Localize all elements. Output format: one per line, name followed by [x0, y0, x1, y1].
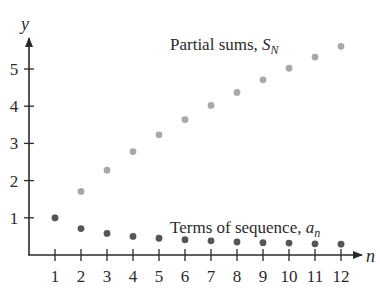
x-tick-label: 7	[207, 267, 216, 286]
terms-label-text: Terms of sequence,	[170, 218, 306, 237]
y-tick-label: 2	[10, 172, 19, 191]
partial-sums-subscript: N	[270, 43, 280, 57]
partial-sums-label-text: Partial sums,	[170, 35, 262, 54]
data-point	[260, 239, 267, 246]
data-point	[104, 167, 111, 174]
terms-symbol: a	[306, 218, 315, 237]
x-tick-label: 11	[307, 267, 323, 286]
data-point	[182, 116, 189, 123]
data-point	[52, 214, 59, 221]
series-partial-sums	[52, 43, 345, 221]
data-point	[104, 230, 111, 237]
x-axis-label: n	[366, 246, 375, 266]
y-tick-label: 4	[10, 97, 19, 116]
data-point	[338, 43, 345, 50]
data-point	[286, 240, 293, 247]
y-tick-label: 1	[10, 209, 19, 228]
scatter-chart: y n 12345 123456789101112 Partial sums, …	[0, 0, 380, 294]
data-point	[234, 89, 241, 96]
x-tick-label: 1	[51, 267, 60, 286]
x-tick-label: 12	[333, 267, 350, 286]
data-point	[286, 65, 293, 72]
data-point	[156, 131, 163, 138]
data-point	[312, 54, 319, 61]
data-point	[338, 241, 345, 248]
x-tick-label: 5	[155, 267, 164, 286]
data-point	[312, 240, 319, 247]
data-point	[156, 235, 163, 242]
terms-annotation: Terms of sequence, an	[170, 218, 320, 240]
data-point	[130, 148, 137, 155]
x-tick-label: 8	[233, 267, 242, 286]
x-tick-label: 3	[103, 267, 112, 286]
y-axis-label: y	[19, 14, 29, 34]
partial-sums-annotation: Partial sums, SN	[170, 35, 280, 57]
x-tick-label: 6	[181, 267, 190, 286]
x-tick-label: 9	[259, 267, 268, 286]
data-point	[208, 102, 215, 109]
data-point	[234, 239, 241, 246]
terms-subscript: n	[314, 226, 320, 240]
x-tick-label: 2	[77, 267, 86, 286]
y-tick-label: 5	[10, 60, 19, 79]
x-tick-label: 10	[281, 267, 298, 286]
data-point	[130, 233, 137, 240]
data-point	[78, 225, 85, 232]
y-tick-label: 3	[10, 134, 19, 153]
data-point	[260, 76, 267, 83]
data-point	[208, 237, 215, 244]
data-point	[78, 188, 85, 195]
x-tick-label: 4	[129, 267, 138, 286]
y-ticks: 12345	[10, 60, 34, 228]
data-point	[182, 236, 189, 243]
